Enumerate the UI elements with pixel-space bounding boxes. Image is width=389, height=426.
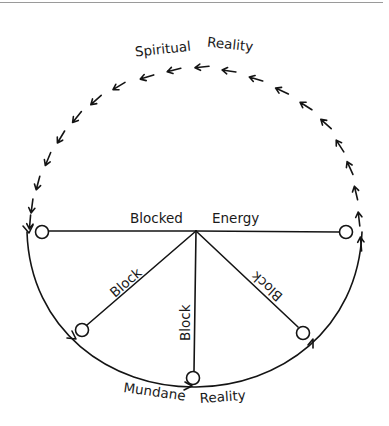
diagram-canvas: Spiritual Reality Blocked Energy Block B… xyxy=(0,0,389,426)
block-spoke-center xyxy=(194,231,196,371)
arrow-icon xyxy=(195,64,209,70)
arrow-icon xyxy=(73,112,82,123)
label-reality-bottom: Reality xyxy=(199,387,246,406)
label-blocked: Blocked xyxy=(130,210,183,226)
arrow-icon xyxy=(353,186,359,200)
arrow-icon xyxy=(113,82,125,89)
label-mundane: Mundane xyxy=(123,379,187,404)
arrow-icon xyxy=(167,67,181,73)
arrow-icon xyxy=(35,176,41,190)
arrow-icon xyxy=(249,76,262,82)
label-energy: Energy xyxy=(212,210,259,226)
arrow-icon xyxy=(91,95,101,104)
arrow-icon xyxy=(44,153,50,166)
arrow-icon xyxy=(321,119,331,128)
arrow-icon xyxy=(222,68,236,74)
arrow-icon xyxy=(346,162,353,175)
label-block-left: Block xyxy=(106,264,144,300)
blocked-energy-line-right xyxy=(196,231,339,232)
node-lower-right xyxy=(297,327,310,340)
arrow-icon xyxy=(300,102,312,109)
node-right xyxy=(340,226,353,239)
arrow-icon xyxy=(57,131,64,143)
arrow-icon xyxy=(276,87,289,94)
arrow-icon xyxy=(356,212,362,226)
arrow-icon xyxy=(336,140,344,152)
label-reality-top: Reality xyxy=(206,34,254,55)
node-lower-left xyxy=(76,324,89,337)
arrow-icon xyxy=(29,199,35,213)
arrow-icon xyxy=(358,237,364,251)
node-bottom xyxy=(187,372,200,385)
spiritual-arrow-chain xyxy=(27,64,364,251)
node-left xyxy=(36,226,49,239)
block-spoke-right xyxy=(196,231,298,327)
label-block-right: Block xyxy=(248,268,286,304)
arrow-icon xyxy=(140,75,153,81)
label-spiritual: Spiritual xyxy=(134,38,191,60)
label-block-center: Block xyxy=(177,304,193,341)
